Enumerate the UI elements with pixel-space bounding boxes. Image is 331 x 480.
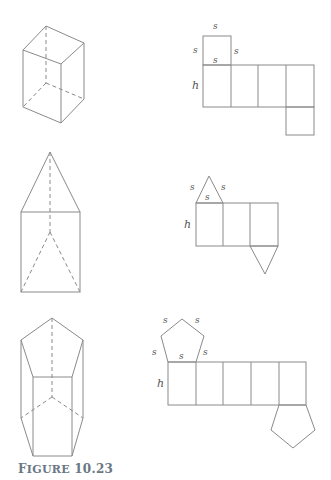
caption-number: 10.23 [74,462,113,476]
caption-prefix: F [18,462,27,476]
height-label: h [157,377,164,390]
side-label: s [163,315,168,325]
square-prism-solid [23,26,84,123]
side-label: s [193,45,198,55]
side-label: s [213,21,218,31]
side-label: s [203,347,208,357]
square-prism-net: s s s s h [192,21,314,135]
caption-word: IGURE [27,463,70,476]
triangular-prism-net: s s s h [184,176,278,274]
height-label: h [192,79,199,92]
side-label: s [221,182,226,192]
side-label: s [152,347,157,357]
figure-canvas: s s s s h s s s h [0,0,331,480]
side-label: s [213,55,218,65]
figure-caption: FIGURE 10.23 [18,462,113,476]
side-label: s [195,315,200,325]
height-label: h [184,218,191,231]
pentagonal-prism-net: s s s s s h [152,315,315,448]
triangular-prism-solid [21,152,80,292]
side-label: s [190,182,195,192]
side-label: s [234,46,239,56]
side-label: s [205,192,210,202]
side-label: s [179,351,184,361]
pentagonal-prism-solid [21,318,83,456]
